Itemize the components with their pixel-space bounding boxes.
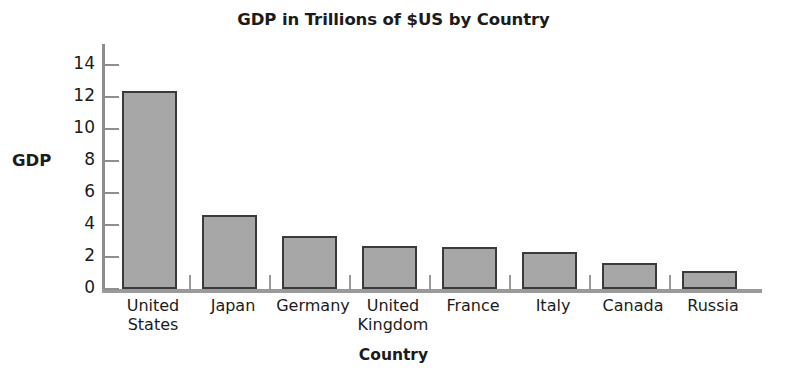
bar: [682, 271, 737, 289]
x-tick-label-line: Kingdom: [346, 315, 440, 334]
x-tick: [589, 275, 591, 289]
y-tick: 6: [105, 192, 119, 194]
x-tick: [269, 275, 271, 289]
x-tick: [349, 275, 351, 289]
y-tick-label: 4: [55, 213, 95, 233]
y-tick-label: 0: [55, 277, 95, 297]
y-tick-label: 12: [55, 85, 95, 105]
bar: [362, 246, 417, 289]
x-tick-label: Russia: [666, 296, 760, 315]
y-tick-label: 8: [55, 149, 95, 169]
y-tick: 14: [105, 64, 119, 66]
y-tick: 10: [105, 128, 119, 130]
x-tick-label-line: Russia: [666, 296, 760, 315]
y-tick: 4: [105, 224, 119, 226]
y-tick-label: 10: [55, 117, 95, 137]
bar: [282, 236, 337, 289]
x-tick: [189, 275, 191, 289]
y-tick: 2: [105, 256, 119, 258]
bar: [522, 252, 577, 289]
chart-title: GDP in Trillions of $US by Country: [0, 10, 787, 29]
x-tick-label-line: States: [106, 315, 200, 334]
y-tick-label: 2: [55, 245, 95, 265]
y-axis-line: [102, 44, 105, 292]
bar-chart: GDP in Trillions of $US by Country GDP 0…: [0, 0, 787, 383]
y-tick: 0: [105, 288, 119, 290]
x-tick: [669, 275, 671, 289]
y-tick-label: 6: [55, 181, 95, 201]
plot-area: 02468101214 UnitedStatesJapanGermanyUnit…: [102, 44, 762, 292]
x-tick: [429, 275, 431, 289]
y-tick-label: 14: [55, 53, 95, 73]
bar: [122, 91, 177, 289]
x-tick: [509, 275, 511, 289]
x-axis-line: [102, 289, 762, 293]
y-tick: 8: [105, 160, 119, 162]
bar: [602, 263, 657, 289]
bar: [442, 247, 497, 289]
bar: [202, 215, 257, 289]
y-tick: 12: [105, 96, 119, 98]
x-axis-title: Country: [0, 346, 787, 364]
